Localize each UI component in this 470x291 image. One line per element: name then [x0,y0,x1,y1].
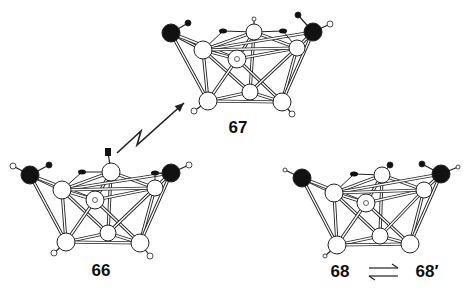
cluster-atom-icon [147,180,163,196]
cluster-atom-icon [246,24,262,40]
cluster-atom-icon [374,167,390,183]
hydrogen-atom-icon [147,253,153,259]
hydrogen-atom-icon [10,163,16,169]
hydrogen-atom-icon [327,21,333,27]
carbonyl-ligand-icon [105,148,111,156]
compound-label-67: 67 [229,118,248,138]
bond-fill [66,242,140,243]
hydrogen-atom-icon [191,108,197,114]
hydrogen-atom-icon [289,111,295,117]
ligand-atom-dark-icon [185,20,191,26]
cluster-atom-icon [86,191,104,209]
cluster-atom-icon [102,163,120,181]
bridging-ligand-atom-icon [279,29,287,34]
compound-label-68-prime: 68′ [416,262,439,282]
cluster-atom-icon [53,181,71,199]
structure-68 [283,161,460,258]
bridging-ligand-atom-icon [350,172,358,177]
cluster-atom-icon [199,92,217,110]
cluster-atom-icon [100,225,116,241]
metal-atom-dark-icon [432,165,450,183]
cluster-diagram [0,0,470,291]
cluster-atom-icon [325,184,343,202]
bridging-ligand-atom-icon [219,29,227,34]
cluster-atom-icon [416,182,432,198]
bond-fill [337,244,410,245]
bond-fill [208,101,282,102]
cluster-atom-icon [289,40,305,56]
compound-label-66: 66 [92,261,111,281]
cluster-atom-icon [328,236,346,254]
equilibrium-arrows-icon [369,264,398,280]
ligand-atom-dark-icon [419,161,425,167]
structure-67 [162,12,333,117]
metal-atom-dark-icon [162,164,180,182]
hydrogen-atom-icon [186,162,192,168]
cluster-atom-icon [401,235,419,253]
bridging-ligand-atom-icon [151,171,159,176]
hydrogen-atom-icon [51,250,57,256]
hydrogen-atom-icon [252,17,256,21]
cluster-atom-icon [57,233,75,251]
ligand-atom-dark-icon [387,162,393,168]
structure-66 [10,148,192,259]
metal-atom-dark-icon [21,166,39,184]
metal-atom-dark-icon [293,169,311,187]
cluster-atom-icon [357,194,375,212]
cluster-atom-icon [273,93,291,111]
hydrogen-atom-icon [323,254,327,258]
hydrogen-atom-icon [283,168,287,172]
compound-label-68: 68 [331,262,350,282]
ligand-atom-dark-icon [46,162,52,168]
metal-atom-dark-icon [162,24,180,42]
ligand-atom-dark-icon [295,12,301,18]
cluster-atom-icon [242,84,258,100]
photolysis-arrow-icon [117,103,184,153]
cluster-atom-icon [131,234,149,252]
metal-atom-dark-icon [304,23,322,41]
cluster-atom-icon [228,50,246,68]
cluster-atom-icon [194,41,212,59]
hydrogen-atom-icon [456,165,460,169]
cluster-atom-icon [372,228,388,244]
bridging-ligand-atom-icon [78,170,86,175]
